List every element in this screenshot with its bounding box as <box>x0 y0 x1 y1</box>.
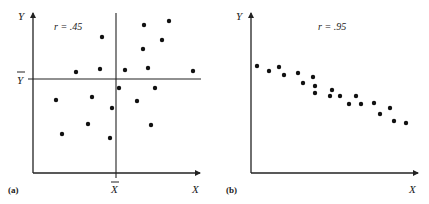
data-point <box>123 68 127 72</box>
data-point <box>142 23 146 27</box>
panel-a: Y Y X X (a) r = .45 <box>8 10 201 195</box>
data-point <box>313 91 317 95</box>
data-point <box>108 136 112 140</box>
panel-label-b: (b) <box>226 185 237 195</box>
data-point <box>354 94 358 98</box>
data-point <box>117 86 121 90</box>
data-point <box>146 66 150 70</box>
correlation-label-b: r = .95 <box>318 21 346 32</box>
data-point <box>267 69 271 73</box>
data-point <box>149 123 153 127</box>
data-point <box>372 101 376 105</box>
data-point <box>347 102 351 106</box>
data-point <box>255 64 259 68</box>
data-point <box>313 84 317 88</box>
correlation-label-a: r = .45 <box>54 21 82 32</box>
data-point <box>359 102 363 106</box>
data-point <box>153 86 157 90</box>
data-point <box>330 88 334 92</box>
scatter-figure: Y Y X X (a) r = .45 Y X (b) r = .95 <box>0 0 429 204</box>
data-point <box>135 99 139 103</box>
data-point <box>90 95 94 99</box>
data-point <box>167 19 171 23</box>
data-point <box>311 75 315 79</box>
data-point <box>328 94 332 98</box>
data-points-b <box>255 64 408 125</box>
panel-label-a: (a) <box>8 185 19 195</box>
data-point <box>388 106 392 110</box>
panel-b: Y X (b) r = .95 <box>226 10 418 195</box>
mean-y-label: Y <box>17 72 25 86</box>
data-point <box>54 98 58 102</box>
data-point <box>404 121 408 125</box>
y-axis-label-a: Y <box>18 10 26 22</box>
data-point <box>392 119 396 123</box>
y-axis-label-b: Y <box>236 10 244 22</box>
data-point <box>110 106 114 110</box>
svg-text:X: X <box>110 183 119 195</box>
x-axis-label-a: X <box>191 183 200 195</box>
data-point <box>141 47 145 51</box>
data-point <box>338 94 342 98</box>
mean-x-label: X <box>110 182 119 195</box>
data-point <box>60 132 64 136</box>
data-point <box>277 65 281 69</box>
x-axis-label-b: X <box>408 183 417 195</box>
data-point <box>74 70 78 74</box>
data-point <box>86 122 90 126</box>
data-point <box>378 112 382 116</box>
data-point <box>100 35 104 39</box>
data-point <box>282 73 286 77</box>
data-point <box>191 69 195 73</box>
data-point <box>296 71 300 75</box>
svg-text:Y: Y <box>17 74 25 86</box>
data-point <box>301 81 305 85</box>
data-point <box>98 67 102 71</box>
data-point <box>160 38 164 42</box>
